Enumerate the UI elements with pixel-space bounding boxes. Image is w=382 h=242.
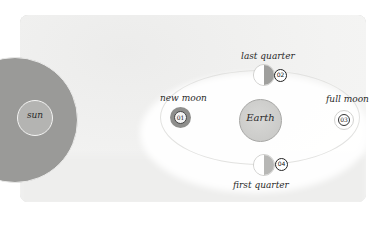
full-moon-label: full moon (326, 94, 369, 104)
first-quarter-label: first quarter (233, 180, 289, 190)
full-moon: 03 (334, 110, 354, 130)
dark-half (264, 65, 274, 85)
lit-half (254, 155, 264, 175)
full-moon-number: 03 (338, 114, 350, 126)
last-quarter-number: 02 (274, 69, 287, 82)
first-quarter-moon (253, 154, 275, 176)
lit-half (254, 65, 264, 85)
sun-label: sun (17, 110, 53, 120)
first-quarter-number: 04 (275, 158, 288, 171)
earth-label: Earth (239, 112, 282, 123)
dark-half (264, 155, 274, 175)
last-quarter-moon (253, 64, 275, 86)
last-quarter-label: last quarter (241, 51, 295, 61)
new-moon-number: 01 (174, 111, 187, 124)
new-moon-label: new moon (160, 93, 207, 103)
new-moon: 01 (170, 107, 191, 128)
